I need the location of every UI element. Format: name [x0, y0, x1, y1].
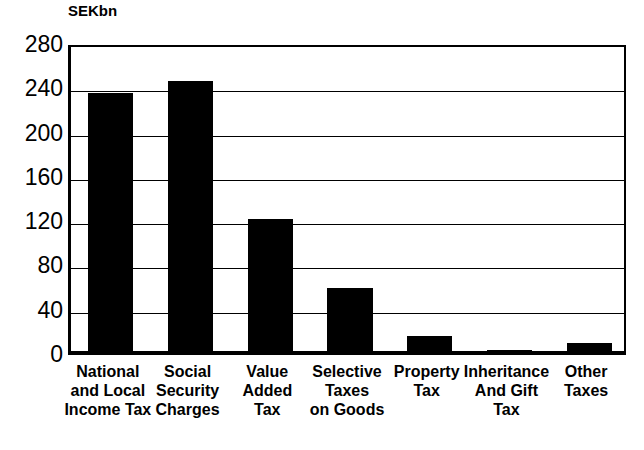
y-axis-tick-120: 120: [1, 210, 63, 233]
bar: [327, 288, 372, 351]
bar: [248, 219, 293, 351]
y-axis-tick-280: 280: [1, 33, 63, 56]
y-axis-tick-0: 0: [1, 343, 63, 366]
bar: [487, 350, 532, 351]
bar: [88, 93, 133, 351]
y-axis-tick-160: 160: [1, 166, 63, 189]
y-axis-tick-200: 200: [1, 122, 63, 145]
plot-area: [68, 45, 626, 355]
bar: [567, 343, 612, 351]
y-axis-unit-label: SEKbn: [68, 2, 117, 20]
y-axis-tick-40: 40: [1, 299, 63, 322]
bars-layer: [71, 47, 624, 351]
x-axis-label: Other Taxes: [537, 362, 635, 400]
bar-chart: SEKbn 28024020016012080400 National and …: [0, 0, 644, 450]
bar: [407, 336, 452, 352]
x-axis-category-labels: National and Local Income TaxSocial Secu…: [68, 362, 626, 450]
y-axis-tick-labels: 28024020016012080400: [0, 0, 63, 450]
y-axis-tick-80: 80: [1, 254, 63, 277]
y-axis-tick-240: 240: [1, 77, 63, 100]
bar: [168, 81, 213, 351]
